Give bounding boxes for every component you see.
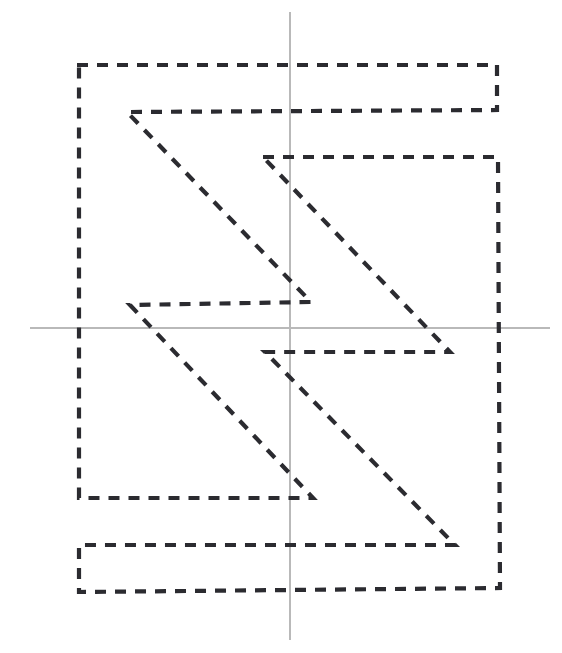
figure-background bbox=[0, 0, 562, 653]
figure-canvas bbox=[0, 0, 562, 653]
zigzag-figure-svg bbox=[0, 0, 562, 653]
